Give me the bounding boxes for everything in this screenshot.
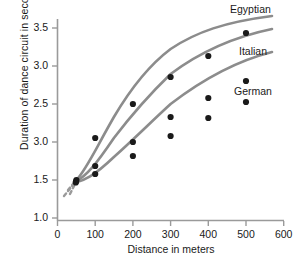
- series-label-italian: Italian: [239, 45, 267, 57]
- x-tick-label-5: 500: [233, 228, 259, 240]
- y-tick-label-1: 3.0: [24, 59, 48, 71]
- x-tick-label-0: 0: [45, 228, 71, 240]
- x-tick-marks: [58, 221, 284, 226]
- x-tick-label-4: 400: [195, 228, 221, 240]
- y-tick-label-3: 3.0: [24, 135, 48, 147]
- y-tick-marks: [52, 28, 57, 218]
- series-label-egyptian: Egyptian: [230, 3, 271, 15]
- y-tick-label-0: 3.5: [24, 21, 48, 33]
- y-tick-label-4: 1.5: [24, 173, 48, 185]
- y-tick-label-2: 2.5: [24, 97, 48, 109]
- x-tick-label-1: 100: [82, 228, 108, 240]
- x-tick-label-2: 200: [120, 228, 146, 240]
- series-line-egyptian: [76, 16, 272, 180]
- chart-container: Duration of dance circuit in seconds Dis…: [0, 0, 296, 263]
- x-tick-label-6: 600: [271, 228, 296, 240]
- y-tick-label-5: 1.0: [24, 211, 48, 223]
- chart-plot-area: [0, 0, 296, 263]
- series-label-german: German: [234, 85, 272, 97]
- x-tick-label-3: 300: [158, 228, 184, 240]
- x-axis-title: Distance in meters: [57, 243, 285, 255]
